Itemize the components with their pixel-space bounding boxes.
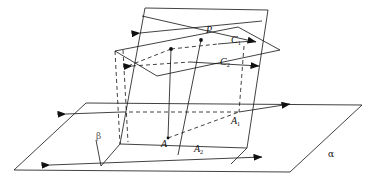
plane-third-hidden-edge [115,51,120,144]
label-C1: C1 [231,35,241,46]
point-mid-dot [169,47,173,51]
a2-axis [50,157,262,165]
point-P-dot [199,38,203,42]
label-A1-sub: 1 [237,120,240,127]
crossing-line-a [140,21,262,33]
beta-right-foot [231,148,247,164]
label-A2: A2 [194,144,203,155]
label-C2-base: C [220,56,227,67]
label-P: P [206,25,212,35]
label-beta: β [96,132,101,141]
geometry-figure: P C1 C2 A A1 A2 β α [0,0,372,182]
c1-axis-dashed [171,44,218,49]
label-A1: A1 [231,116,240,127]
beta-foot-line [96,140,101,166]
dashed-vertical-C1-A1 [239,46,244,112]
label-C2-sub: 2 [227,61,230,68]
line-PA [178,40,201,155]
plane-beta-hidden-edge [123,50,128,142]
line-A-to-upper [168,49,171,138]
figure-canvas [0,0,372,182]
label-alpha: α [328,150,334,159]
plane-beta [120,8,268,148]
label-C2: C2 [220,57,230,68]
a1-axis-left [66,112,122,114]
label-A: A [161,139,167,149]
c2-axis-dashed [132,62,190,66]
a1-axis-right [239,104,290,112]
label-C1-sub: 1 [238,39,241,46]
projection-A1-A [168,112,239,138]
plane-alpha [14,103,362,172]
label-C1-base: C [231,34,238,45]
label-A2-sub: 2 [200,148,203,155]
